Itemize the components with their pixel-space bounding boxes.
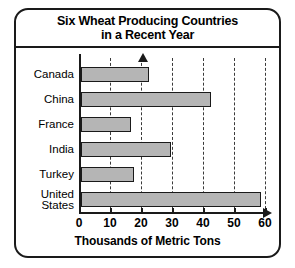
bar-row xyxy=(81,137,267,162)
category-axis-labels: Canada China France India Turkey United … xyxy=(18,62,78,212)
category-label-china-text: China xyxy=(44,94,74,105)
bar-canada xyxy=(81,67,149,82)
category-label-china: China xyxy=(18,87,78,112)
category-label-india: India xyxy=(18,137,78,162)
tick-30 xyxy=(172,208,174,214)
bar-series xyxy=(81,62,267,212)
bar-china xyxy=(81,92,211,107)
tick-0 xyxy=(79,208,81,214)
plot-area: Canada China France India Turkey United … xyxy=(16,48,279,258)
tick-label-0: 0 xyxy=(76,216,83,230)
x-axis-ticks xyxy=(79,208,265,214)
tick-10 xyxy=(110,208,112,214)
bar-row xyxy=(81,112,267,137)
category-label-turkey-text: Turkey xyxy=(39,169,74,180)
chart-figure: Six Wheat Producing Countries in a Recen… xyxy=(14,8,281,258)
x-axis-tick-labels: 0102030405060 xyxy=(79,216,265,232)
tick-60 xyxy=(265,208,267,214)
bar-row xyxy=(81,87,267,112)
bar-row xyxy=(81,162,267,187)
category-label-france-text: France xyxy=(38,119,74,130)
category-label-france: France xyxy=(18,112,78,137)
tick-40 xyxy=(203,208,205,214)
category-label-united-states-line-1: United xyxy=(41,189,74,200)
chart-title: Six Wheat Producing Countries in a Recen… xyxy=(16,10,279,48)
category-label-turkey: Turkey xyxy=(18,162,78,187)
bar-united-states xyxy=(81,192,261,207)
tick-label-40: 40 xyxy=(196,216,209,230)
chart-title-line-2: in a Recent Year xyxy=(101,28,194,42)
tick-label-60: 60 xyxy=(258,216,271,230)
bar-turkey xyxy=(81,167,134,182)
category-label-canada: Canada xyxy=(18,62,78,87)
y-axis-arrow-icon xyxy=(138,53,148,62)
bar-india xyxy=(81,142,171,157)
bar-france xyxy=(81,117,131,132)
tick-label-50: 50 xyxy=(227,216,240,230)
chart-title-line-1: Six Wheat Producing Countries xyxy=(57,14,238,28)
tick-20 xyxy=(141,208,143,214)
tick-label-20: 20 xyxy=(134,216,147,230)
bar-row xyxy=(81,62,267,87)
category-label-india-text: India xyxy=(49,144,74,155)
category-label-united-states: United States xyxy=(18,187,78,212)
category-label-canada-text: Canada xyxy=(34,69,74,80)
tick-label-10: 10 xyxy=(103,216,116,230)
tick-label-30: 30 xyxy=(165,216,178,230)
category-label-united-states-line-2: States xyxy=(41,200,74,211)
tick-50 xyxy=(234,208,236,214)
x-axis-title: Thousands of Metric Tons xyxy=(16,234,279,248)
